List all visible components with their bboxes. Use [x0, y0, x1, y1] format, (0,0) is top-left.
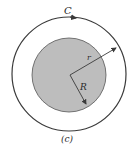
figure-caption: (c) [61, 134, 74, 144]
curve-label-C: C [64, 5, 72, 16]
radius-label-R: R [79, 82, 87, 92]
diagram-canvas: C r R (c) [0, 0, 136, 154]
inner-shaded-disk [32, 38, 106, 112]
